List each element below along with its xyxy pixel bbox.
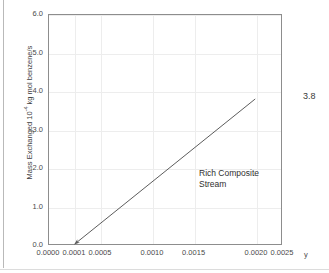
rich-composite-stream-annotation: Rich Composite Stream xyxy=(199,168,285,190)
y-axis-title-exponent: -4 xyxy=(23,107,29,112)
page-border-left xyxy=(3,0,4,268)
y-axis-tick-label: 5.0 xyxy=(33,49,43,57)
y-axis-tick-label: 4.0 xyxy=(33,87,43,95)
x-axis-tick-label: 0.0000 xyxy=(37,249,60,257)
x-axis-unit-label: y xyxy=(304,250,308,259)
x-axis-tick-label: 0.0010 xyxy=(141,249,164,257)
x-axis-tick-label: 0.0015 xyxy=(182,249,205,257)
x-axis-tick-label: 0.0005 xyxy=(89,249,112,257)
y-axis-tick-label: 2.0 xyxy=(33,164,43,172)
annotation-line-2: Stream xyxy=(199,179,285,190)
y-axis-tick-label: 6.0 xyxy=(33,10,43,18)
y-axis-tick-label: 1.0 xyxy=(33,203,43,211)
x-axis-tick-label: 0.0020 xyxy=(245,249,268,257)
annotation-line-1: Rich Composite xyxy=(199,168,285,179)
endpoint-value-label: 3.8 xyxy=(303,91,316,101)
y-axis-tick-label: 3.0 xyxy=(33,126,43,134)
x-axis-tick-label: 0.0001 xyxy=(63,249,86,257)
page-border-bottom xyxy=(0,269,329,270)
series-layer xyxy=(49,15,281,244)
x-axis-tick-label: 0.0025 xyxy=(271,249,294,257)
plot-area xyxy=(48,14,282,245)
chart-page: Mass Exchanged 10-4 kg mol benzene/s 0.0… xyxy=(0,0,329,273)
